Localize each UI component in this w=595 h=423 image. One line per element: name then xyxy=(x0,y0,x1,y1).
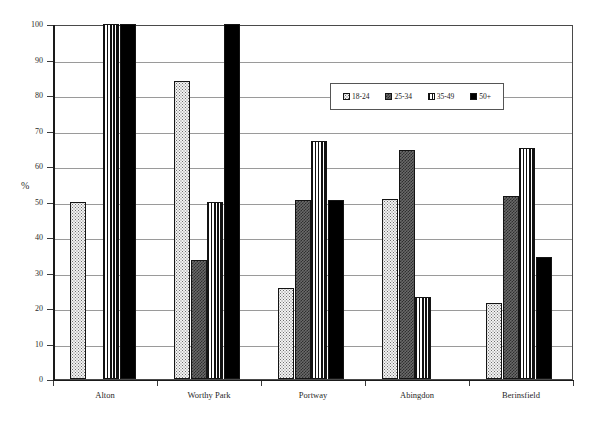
bar xyxy=(311,141,327,379)
y-tick-mark xyxy=(47,274,53,275)
y-tick-label: 80 xyxy=(35,92,43,100)
legend: 18-2425-3435-4950+ xyxy=(330,83,504,110)
bar-group xyxy=(54,26,158,379)
legend-swatch-icon xyxy=(428,93,435,100)
legend-item: 25-34 xyxy=(385,93,412,101)
y-tick-label: 10 xyxy=(35,341,43,349)
x-tick-label: Berinsfield xyxy=(502,391,540,400)
legend-item: 35-49 xyxy=(428,93,455,101)
bar xyxy=(224,24,240,379)
bar-chart: 0102030405060708090100 % AltonWorthy Par… xyxy=(0,0,595,423)
y-tick-label: 0 xyxy=(39,376,43,384)
legend-swatch-icon xyxy=(385,93,392,100)
plot-area xyxy=(53,25,573,380)
y-axis-title: % xyxy=(21,180,29,191)
legend-label: 50+ xyxy=(479,93,491,101)
y-tick-label: 70 xyxy=(35,128,43,136)
bar-group xyxy=(158,26,262,379)
y-tick-label: 50 xyxy=(35,199,43,207)
x-tick-mark xyxy=(573,381,574,386)
x-tick-label: Alton xyxy=(95,391,114,400)
bar xyxy=(399,150,415,379)
bar xyxy=(382,199,398,379)
y-axis-line xyxy=(53,25,55,381)
bar xyxy=(191,260,207,379)
legend-item: 50+ xyxy=(470,93,491,101)
bar-group xyxy=(470,26,574,379)
y-tick-mark xyxy=(47,203,53,204)
bar xyxy=(278,288,294,379)
y-tick-label: 20 xyxy=(35,305,43,313)
y-tick-label: 60 xyxy=(35,163,43,171)
y-tick-mark xyxy=(47,132,53,133)
y-tick-label: 100 xyxy=(31,21,43,29)
legend-label: 18-24 xyxy=(352,93,370,101)
y-tick-mark xyxy=(47,25,53,26)
y-tick-mark xyxy=(47,96,53,97)
y-tick-mark xyxy=(47,309,53,310)
x-axis-line xyxy=(53,380,574,381)
legend-label: 35-49 xyxy=(437,93,455,101)
legend-item: 18-24 xyxy=(343,93,370,101)
y-tick-mark xyxy=(47,238,53,239)
bar xyxy=(328,200,344,379)
x-tick-mark xyxy=(261,381,262,386)
x-tick-mark xyxy=(365,381,366,386)
bar xyxy=(486,303,502,379)
bar xyxy=(295,200,311,379)
x-tick-mark xyxy=(157,381,158,386)
x-tick-label: Worthy Park xyxy=(188,391,231,400)
bar-group xyxy=(262,26,366,379)
x-tick-label: Abingdon xyxy=(400,391,434,400)
bar xyxy=(503,196,519,379)
bar xyxy=(207,202,223,380)
bar xyxy=(519,148,535,379)
legend-items: 18-2425-3435-4950+ xyxy=(331,84,503,109)
y-tick-label: 40 xyxy=(35,234,43,242)
y-tick-label: 90 xyxy=(35,57,43,65)
y-tick-label: 30 xyxy=(35,270,43,278)
y-tick-mark xyxy=(47,345,53,346)
bar xyxy=(120,24,136,379)
bar xyxy=(103,24,119,379)
bar xyxy=(70,202,86,380)
x-tick-mark xyxy=(53,381,54,386)
legend-label: 25-34 xyxy=(394,93,412,101)
legend-swatch-icon xyxy=(470,93,477,100)
bar xyxy=(174,81,190,379)
y-tick-mark xyxy=(47,167,53,168)
x-tick-label: Portway xyxy=(299,391,327,400)
bar xyxy=(536,257,552,379)
bar-group xyxy=(366,26,470,379)
x-tick-mark xyxy=(469,381,470,386)
y-tick-mark xyxy=(47,61,53,62)
bar xyxy=(415,297,431,379)
legend-swatch-icon xyxy=(343,93,350,100)
